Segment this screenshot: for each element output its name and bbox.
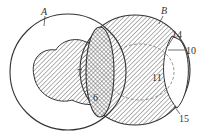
venn-diagram: A B 14 10 7 6 11 15 xyxy=(0,0,201,134)
label-set-a: A xyxy=(40,6,48,17)
intersection-lens-hatch xyxy=(86,27,114,117)
callout-10: 10 xyxy=(186,45,196,56)
callout-11: 11 xyxy=(152,72,162,83)
label-set-b: B xyxy=(161,5,167,16)
callout-6: 6 xyxy=(93,92,98,103)
callout-14: 14 xyxy=(172,29,182,40)
callout-15: 15 xyxy=(179,113,189,124)
callout-7: 7 xyxy=(77,67,82,78)
